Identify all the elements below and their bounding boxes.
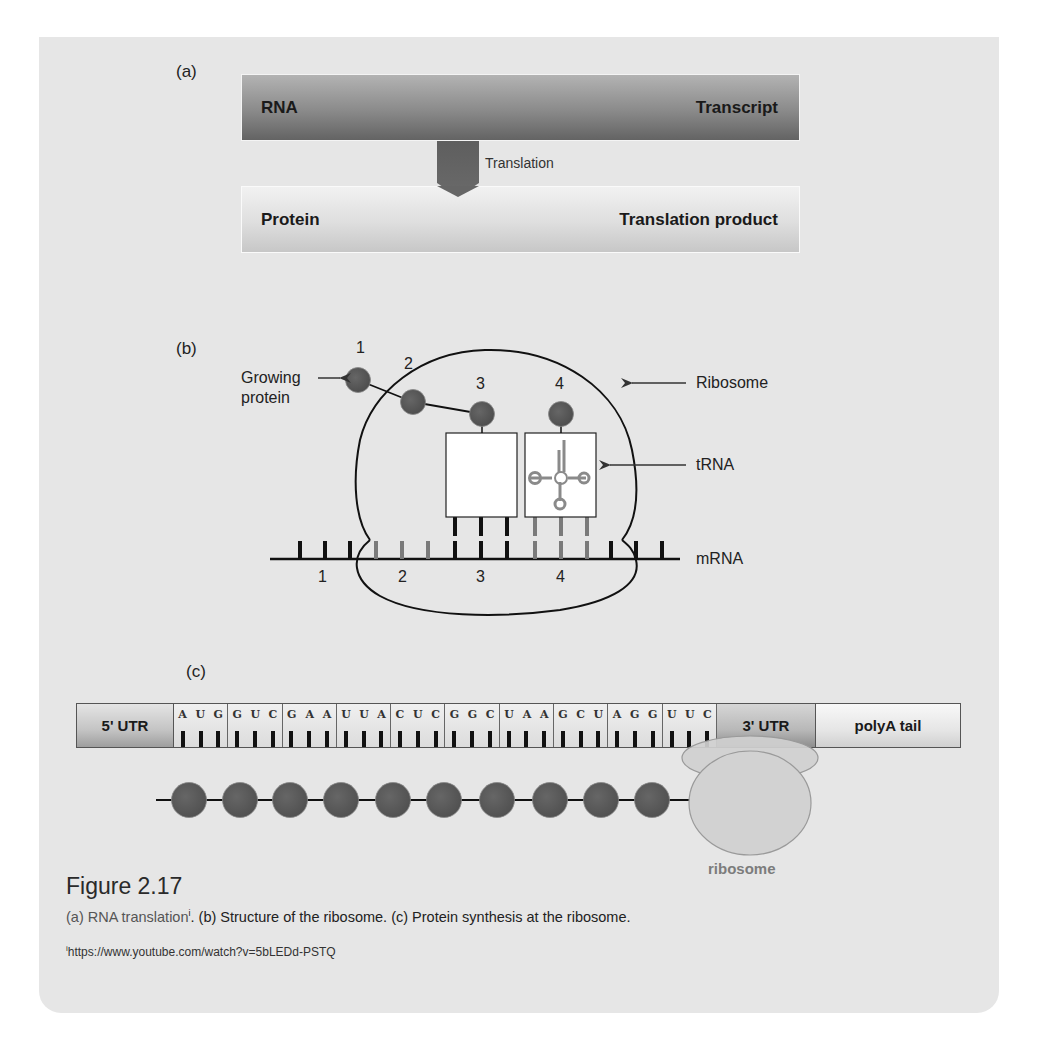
caption-rest: . (b) Structure of the ribosome. (c) Pro… — [191, 909, 631, 925]
footnote: ihttps://www.youtube.com/watch?v=5bLEDd-… — [66, 944, 336, 959]
ribosome-large-subunit — [689, 751, 811, 855]
caption-part-a-link[interactable]: (a) RNA translation — [66, 909, 189, 925]
figure-caption: (a) RNA translationi. (b) Structure of t… — [66, 908, 631, 925]
ribosome-label-c: ribosome — [708, 860, 776, 877]
figure-number: Figure 2.17 — [66, 873, 182, 900]
protein-synthesis-diagram — [0, 0, 1037, 880]
footnote-url[interactable]: https://www.youtube.com/watch?v=5bLEDd-P… — [68, 945, 336, 959]
